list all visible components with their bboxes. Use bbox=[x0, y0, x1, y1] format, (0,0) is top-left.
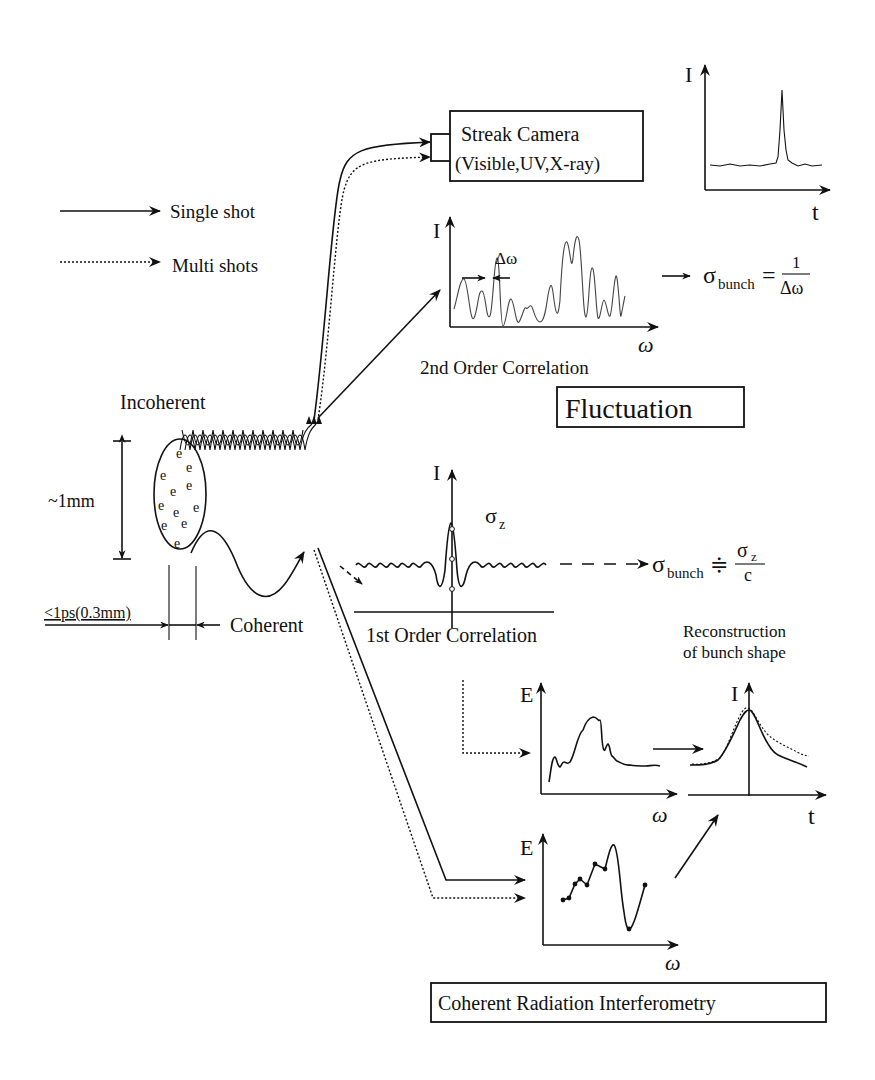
legend: Single shot Multi shots bbox=[60, 201, 258, 276]
coherent-label: Coherent bbox=[230, 614, 304, 636]
incoherent-source: Incoherent bbox=[120, 391, 322, 450]
first-order-formula: σ bunch ≑ σ z c bbox=[652, 539, 765, 585]
streak-plot: I t bbox=[685, 62, 830, 225]
spectrum-plot: E ω bbox=[520, 682, 677, 827]
electron-bunch: e e e e e e e e e e e ~1mm <1ps(0.3mm) C… bbox=[44, 439, 304, 640]
svg-text:σ: σ bbox=[703, 262, 716, 288]
svg-text:e: e bbox=[158, 498, 164, 513]
fluctuation-box: Fluctuation bbox=[557, 387, 744, 427]
bunch-height-label: ~1mm bbox=[48, 491, 95, 511]
svg-text:t: t bbox=[808, 803, 815, 829]
svg-text:e: e bbox=[161, 518, 167, 533]
fluctuation-label: Fluctuation bbox=[565, 393, 693, 424]
svg-text:ω: ω bbox=[665, 950, 681, 975]
svg-text:ω: ω bbox=[652, 802, 668, 827]
svg-text:of bunch shape: of bunch shape bbox=[683, 643, 786, 662]
svg-text:Δω: Δω bbox=[495, 249, 517, 268]
svg-text:e: e bbox=[176, 446, 182, 461]
svg-text:E: E bbox=[520, 682, 533, 707]
svg-text:I: I bbox=[731, 681, 738, 706]
svg-text:Reconstruction: Reconstruction bbox=[683, 622, 786, 641]
svg-text:t: t bbox=[812, 199, 819, 225]
streak-camera-subtitle: (Visible,UV,X-ray) bbox=[455, 153, 600, 175]
cri-box: Coherent Radiation Interferometry bbox=[431, 983, 826, 1022]
svg-text:z: z bbox=[499, 517, 505, 532]
electrons: e e e e e e e e e e e bbox=[158, 446, 199, 551]
svg-text:e: e bbox=[160, 468, 166, 483]
svg-text:≑: ≑ bbox=[710, 552, 728, 577]
svg-text:Δω: Δω bbox=[780, 278, 804, 298]
svg-text:E: E bbox=[520, 835, 533, 860]
svg-text:I: I bbox=[433, 460, 440, 485]
svg-text:=: = bbox=[762, 262, 776, 288]
incoherent-paths bbox=[314, 142, 440, 420]
streak-camera-title: Streak Camera bbox=[461, 123, 579, 145]
first-order-plot: I σ z 1st Order Correlation bbox=[340, 460, 648, 646]
svg-text:e: e bbox=[170, 484, 176, 499]
streak-camera: Streak Camera (Visible,UV,X-ray) bbox=[431, 111, 643, 181]
legend-multi-shots: Multi shots bbox=[172, 255, 258, 276]
svg-text:ω: ω bbox=[638, 332, 654, 357]
camera-port bbox=[431, 134, 451, 161]
second-order-formula: σ bunch = 1 Δω bbox=[662, 253, 810, 298]
cri-label: Coherent Radiation Interferometry bbox=[438, 992, 716, 1015]
svg-text:e: e bbox=[186, 478, 192, 493]
phase-to-reconstruction-arrow bbox=[675, 815, 718, 878]
svg-text:I: I bbox=[433, 218, 440, 243]
svg-text:e: e bbox=[174, 536, 180, 551]
incoherent-label: Incoherent bbox=[120, 391, 206, 413]
helix-wave-icon bbox=[180, 416, 322, 450]
svg-text:e: e bbox=[173, 505, 179, 520]
first-order-caption: 1st Order Correlation bbox=[366, 624, 537, 646]
svg-text:bunch: bunch bbox=[667, 565, 704, 581]
reconstruction-plot: I t bbox=[688, 681, 826, 829]
coherent-wave-icon bbox=[191, 531, 304, 597]
svg-text:1: 1 bbox=[792, 253, 801, 272]
legend-single-shot: Single shot bbox=[170, 201, 256, 222]
second-order-plot: I ω Δω 2nd Order Correlation bbox=[420, 217, 658, 378]
bunch-length-label: <1ps(0.3mm) bbox=[44, 604, 131, 622]
svg-text:I: I bbox=[685, 62, 692, 87]
svg-text:σ: σ bbox=[737, 539, 748, 561]
svg-text:c: c bbox=[744, 565, 752, 585]
svg-text:σ: σ bbox=[652, 551, 665, 577]
svg-text:bunch: bunch bbox=[718, 276, 755, 292]
second-order-caption: 2nd Order Correlation bbox=[420, 357, 589, 378]
bunch-length-diagram: Single shot Multi shots Incoherent e e e… bbox=[0, 0, 875, 1080]
svg-text:e: e bbox=[193, 500, 199, 515]
svg-text:e: e bbox=[186, 460, 192, 475]
svg-text:z: z bbox=[751, 549, 757, 564]
svg-text:σ: σ bbox=[485, 503, 497, 528]
phase-plot: E ω bbox=[520, 834, 681, 975]
reconstruction-title: Reconstruction of bunch shape bbox=[683, 622, 786, 662]
svg-text:e: e bbox=[181, 516, 187, 531]
coherent-paths bbox=[314, 548, 530, 898]
